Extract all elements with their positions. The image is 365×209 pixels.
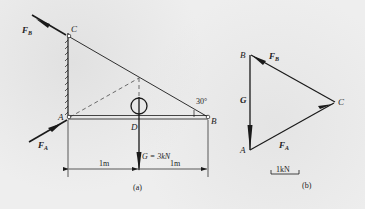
dimension-label-right: 1m bbox=[170, 159, 181, 168]
label-fb: FB bbox=[21, 25, 32, 36]
pin-c bbox=[67, 34, 71, 38]
label-b-g: G bbox=[240, 95, 247, 105]
label-b-b: B bbox=[240, 50, 246, 60]
caption-b: (b) bbox=[302, 181, 312, 190]
statics-diagram: C A B D 30° FB FA G = 3kN 1m 1m (a) B A … bbox=[0, 0, 365, 209]
label-b-fa: FA bbox=[278, 140, 289, 151]
dimension-label-left: 1m bbox=[99, 159, 110, 168]
wall bbox=[65, 33, 68, 118]
label-a: A bbox=[57, 112, 64, 122]
label-b-fb: FB bbox=[268, 51, 279, 62]
label-b-c: C bbox=[338, 97, 345, 107]
label-b-a: A bbox=[239, 145, 246, 155]
scale-label: 1kN bbox=[276, 165, 290, 174]
caption-a: (a) bbox=[133, 183, 142, 192]
label-g-load: G = 3kN bbox=[142, 152, 171, 161]
cable-cb bbox=[68, 36, 208, 117]
label-c: C bbox=[71, 24, 78, 34]
beam-ab bbox=[68, 116, 208, 120]
pin-a bbox=[67, 115, 71, 119]
angle-label: 30° bbox=[196, 97, 207, 106]
label-d: D bbox=[130, 122, 138, 132]
pin-b bbox=[206, 115, 210, 119]
vector-fa bbox=[250, 103, 334, 150]
figure-b: B A C G FB FA 1kN (b) bbox=[239, 50, 345, 190]
figure-a: C A B D 30° FB FA G = 3kN 1m 1m (a) bbox=[21, 15, 217, 192]
label-fa: FA bbox=[37, 140, 48, 151]
dimension-lines bbox=[68, 120, 208, 177]
figure-canvas: C A B D 30° FB FA G = 3kN 1m 1m (a) B A … bbox=[0, 0, 365, 209]
construction-lines bbox=[70, 78, 139, 117]
label-b: B bbox=[211, 116, 217, 126]
